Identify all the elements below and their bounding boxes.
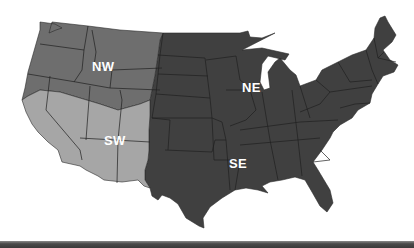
region-label-nw: NW xyxy=(92,60,114,73)
region-label-se: SE xyxy=(229,157,247,170)
map-canvas xyxy=(0,0,414,248)
bottom-divider-bar xyxy=(0,241,414,248)
us-region-map: NW NE SW SE xyxy=(0,0,414,248)
region-label-sw: SW xyxy=(104,134,126,147)
region-east-shape xyxy=(145,16,398,228)
region-label-ne: NE xyxy=(242,81,261,94)
